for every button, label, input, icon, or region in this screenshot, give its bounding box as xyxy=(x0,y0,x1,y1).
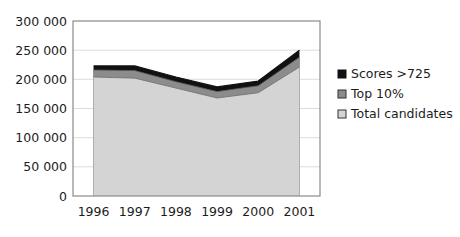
y-tick-label: 250 000 xyxy=(15,43,67,58)
x-tick-label: 1998 xyxy=(160,204,192,219)
y-tick-label: 50 000 xyxy=(23,159,67,174)
y-axis-tick-labels: 050 000100 000150 000200 000250 000300 0… xyxy=(15,14,67,204)
x-axis-tick-labels: 199619971998199920002001 xyxy=(78,204,316,219)
stacked-area-chart: 050 000100 000150 000200 000250 000300 0… xyxy=(0,0,460,237)
y-tick-label: 100 000 xyxy=(15,130,67,145)
y-tick-label: 200 000 xyxy=(15,72,67,87)
legend-swatch xyxy=(338,70,346,78)
legend-swatch xyxy=(338,90,346,98)
legend-swatch xyxy=(338,110,346,118)
chart-container: 050 000100 000150 000200 000250 000300 0… xyxy=(0,0,460,237)
y-tick-label: 0 xyxy=(59,189,67,204)
x-tick-label: 2001 xyxy=(284,204,316,219)
legend-label: Top 10% xyxy=(350,86,404,101)
legend-label: Total candidates xyxy=(350,106,453,121)
chart-legend: Scores >725Top 10%Total candidates xyxy=(338,66,453,121)
x-tick-label: 1997 xyxy=(119,204,151,219)
y-tick-label: 150 000 xyxy=(15,101,67,116)
x-tick-label: 2000 xyxy=(242,204,274,219)
legend-label: Scores >725 xyxy=(351,66,431,81)
x-tick-label: 1999 xyxy=(201,204,233,219)
x-tick-label: 1996 xyxy=(78,204,110,219)
y-tick-label: 300 000 xyxy=(15,14,67,29)
